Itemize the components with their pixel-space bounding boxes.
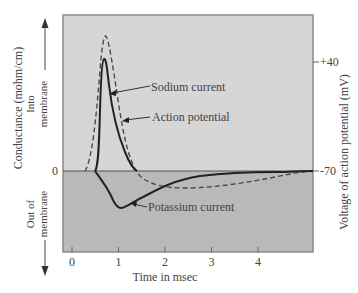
left-zero-label: 0 [52, 164, 58, 178]
x-tick-2: 2 [162, 255, 168, 269]
right-tick-label-plus40: +40 [320, 55, 339, 69]
up-arrow-icon [42, 18, 49, 70]
x-tick-3: 3 [209, 255, 215, 269]
right-tick-label-minus70: -70 [320, 164, 336, 178]
x-tick-labels: 0 1 2 3 4 [69, 255, 261, 269]
x-tick-4: 4 [255, 255, 261, 269]
left-axis-label: Conductance (mohm/cm) [11, 47, 25, 169]
x-tick-0: 0 [69, 255, 75, 269]
action-potential-label: Action potential [152, 110, 230, 124]
down-arrow-icon [42, 240, 49, 276]
into-label-line1: Into [24, 95, 36, 113]
into-label-line2: membrane [37, 81, 49, 128]
chart: 0 1 2 3 4 Time in msec +40 -70 Voltage o… [0, 0, 358, 293]
right-axis-label: Voltage of action potential (mV) [337, 74, 351, 230]
x-tick-1: 1 [116, 255, 122, 269]
potassium-label: Potassium current [148, 200, 235, 214]
x-axis-label: Time in msec [133, 270, 198, 284]
out-label-line1: Out of [24, 199, 36, 228]
sodium-label: Sodium current [151, 80, 226, 94]
out-label-line2: membrane [37, 191, 49, 238]
